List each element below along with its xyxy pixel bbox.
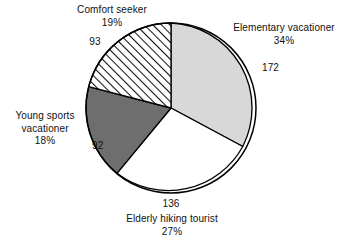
slice-label-elementary-vacationer-percent: 34%	[213, 35, 355, 48]
slice-label-elderly-hiking-tourist: Elderly hiking tourist 27%	[106, 213, 238, 238]
slice-value-elementary-vacationer: 172	[262, 62, 290, 75]
slice-label-comfort-seeker-name: Comfort seeker	[52, 4, 172, 17]
slice-label-young-sports-vacationer-percent: 18%	[2, 135, 88, 148]
slice-value-comfort-seeker: 93	[82, 36, 108, 49]
slice-label-comfort-seeker: Comfort seeker 19%	[52, 4, 172, 29]
slice-label-elementary-vacationer-name: Elementary vacationer	[213, 22, 355, 35]
slice-label-elderly-hiking-tourist-name: Elderly hiking tourist	[106, 213, 238, 226]
slice-value-young-sports-vacationer: 92	[92, 140, 114, 153]
slice-label-elementary-vacationer: Elementary vacationer 34%	[213, 22, 355, 47]
pie-chart-figure: Comfort seeker 19% 93 Elementary vacatio…	[0, 0, 355, 245]
slice-value-elderly-hiking-tourist: 136	[145, 198, 197, 211]
slice-label-young-sports-vacationer: Young sports vacationer 18%	[2, 110, 88, 148]
slice-label-comfort-seeker-percent: 19%	[52, 17, 172, 30]
slice-label-young-sports-vacationer-name-line1: Young sports	[2, 110, 88, 123]
slice-label-young-sports-vacationer-name-line2: vacationer	[2, 123, 88, 136]
slice-label-elderly-hiking-tourist-percent: 27%	[106, 226, 238, 239]
